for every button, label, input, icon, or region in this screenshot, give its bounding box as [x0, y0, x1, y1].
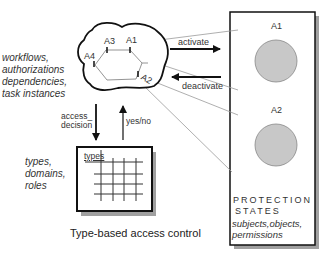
state-circle-a1: [255, 40, 297, 82]
workflow-description: workflows, authorizations dependencies, …: [2, 52, 67, 100]
state-a1-label: A1: [271, 20, 282, 32]
protection-states-title: PROTECTION STATES: [233, 195, 312, 217]
types-description: types, domains, roles: [25, 156, 66, 192]
node-a1-label: A1: [126, 34, 137, 46]
deactivate-label: deactivate: [182, 82, 223, 91]
mapping-line-a2-b: [143, 85, 232, 172]
node-a4-label: A4: [84, 50, 95, 62]
matrix-caption: Type-based access control: [70, 227, 201, 239]
types-header-label: types: [84, 152, 104, 161]
protection-states-subtitle: subjects,objects, permissions: [232, 218, 302, 240]
yes-no-label: yes/no: [126, 117, 151, 126]
state-a2-label: A2: [271, 104, 282, 116]
node-a3-label: A3: [104, 35, 115, 47]
activate-label: activate: [178, 38, 209, 47]
access-decision-label: access_ decision: [61, 112, 92, 130]
state-circle-a2: [255, 124, 297, 166]
